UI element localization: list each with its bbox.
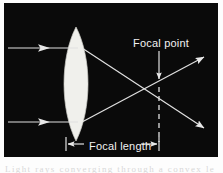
lens-diagram-figure: Focal point Focal length Light rays conv…: [0, 0, 223, 173]
diagram-plate: Focal point Focal length: [4, 3, 218, 157]
refracted-ray-upper: [82, 48, 204, 128]
figure-caption-text: Light rays converging through a convex l…: [5, 164, 215, 173]
focal-length-label: Focal length: [89, 140, 151, 152]
refracted-rays: [82, 48, 204, 128]
convex-lens: [64, 27, 88, 141]
figure-caption: Light rays converging through a convex l…: [5, 163, 215, 173]
refracted-ray-lower: [82, 57, 204, 122]
ray-diagram-svg: [4, 3, 218, 157]
focal-point-label: Focal point: [133, 37, 189, 49]
